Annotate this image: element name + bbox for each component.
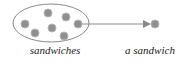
- member-dot: [48, 24, 56, 32]
- member-dot: [60, 32, 68, 40]
- member-dot: [74, 20, 82, 28]
- arrowhead-icon: [143, 20, 151, 28]
- member-dot: [62, 13, 70, 21]
- member-dot: [21, 20, 29, 28]
- member-dot: [44, 9, 52, 17]
- set-members: [21, 9, 82, 40]
- member-dot: [31, 29, 39, 37]
- element-label: a sandwich: [125, 44, 175, 56]
- element-dot: [151, 20, 159, 28]
- set-label: sandwiches: [30, 44, 81, 56]
